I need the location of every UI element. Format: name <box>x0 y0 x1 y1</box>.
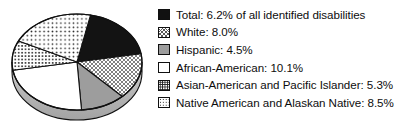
legend-label-white: White: 8.0% <box>176 26 238 38</box>
legend-item-hispanic: Hispanic: 4.5% <box>158 41 412 59</box>
pie-chart-graphic <box>0 0 155 124</box>
legend-label-asian-american-pacific-islander: Asian-American and Pacific Islander: 5.3… <box>176 79 393 91</box>
legend-item-total: Total: 6.2% of all identified disabiliti… <box>158 6 412 24</box>
legend-swatch-total-icon <box>158 9 170 20</box>
legend-swatch-native-american-alaskan-native-icon <box>158 97 170 108</box>
legend-swatch-hispanic-icon <box>158 44 170 55</box>
legend-swatch-asian-american-pacific-islander-icon <box>158 80 170 91</box>
legend-swatch-african-american-icon <box>158 62 170 73</box>
legend-item-native-american-alaskan-native: Native American and Alaskan Native: 8.5% <box>158 94 412 112</box>
legend-item-asian-american-pacific-islander: Asian-American and Pacific Islander: 5.3… <box>158 76 412 94</box>
pie-chart-figure: Total: 6.2% of all identified disabiliti… <box>0 0 412 124</box>
pie-chart <box>0 0 155 124</box>
legend-swatch-white-icon <box>158 27 170 38</box>
legend-label-total: Total: 6.2% of all identified disabiliti… <box>176 9 365 21</box>
legend-item-african-american: African-American: 10.1% <box>158 59 412 77</box>
legend-item-white: White: 8.0% <box>158 24 412 42</box>
chart-legend: Total: 6.2% of all identified disabiliti… <box>155 0 412 112</box>
legend-label-native-american-alaskan-native: Native American and Alaskan Native: 8.5% <box>176 97 394 109</box>
legend-label-hispanic: Hispanic: 4.5% <box>176 44 253 56</box>
legend-label-african-american: African-American: 10.1% <box>176 62 303 74</box>
